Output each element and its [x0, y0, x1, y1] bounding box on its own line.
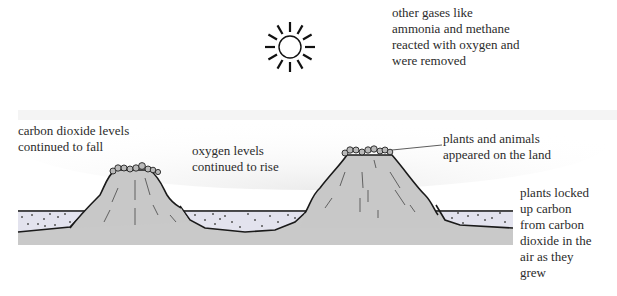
sun-icon — [265, 22, 315, 72]
label-carbon-dioxide: carbon dioxide levels continued to fall — [18, 123, 129, 155]
early-earth-atmosphere-diagram: other gases like ammonia and methane rea… — [0, 0, 617, 296]
label-other-gases: other gases like ammonia and methane rea… — [392, 5, 519, 69]
label-plants-animals-land: plants and animals appeared on the land — [443, 131, 551, 163]
label-oxygen: oxygen levels continued to rise — [192, 143, 279, 175]
label-plants-locked-carbon: plants locked up carbon from carbon diox… — [520, 185, 592, 281]
